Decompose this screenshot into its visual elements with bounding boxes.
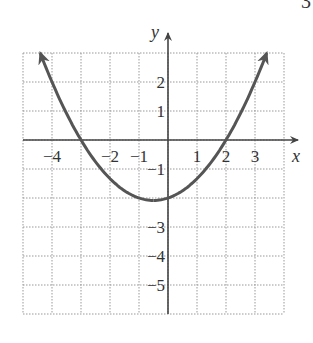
y-tick-label: −5 <box>147 276 165 295</box>
x-tick-label: 3 <box>251 147 260 166</box>
parabola-curve-right <box>154 53 267 200</box>
y-tick-label: −3 <box>147 218 165 237</box>
y-tick-label: 1 <box>157 102 166 121</box>
parabola-chart: xy−4−2−112321−1−3−4−5 <box>0 0 313 343</box>
y-tick-label: −4 <box>147 247 166 266</box>
parabola-curve-left <box>40 53 153 200</box>
x-tick-label: 2 <box>222 147 231 166</box>
x-tick-label: 1 <box>193 147 202 166</box>
x-axis-label: x <box>291 146 300 166</box>
y-tick-label: −1 <box>147 160 165 179</box>
x-tick-label: −4 <box>43 147 62 166</box>
x-tick-label: −2 <box>101 147 119 166</box>
y-tick-label: 2 <box>157 73 166 92</box>
y-axis-label: y <box>149 22 159 42</box>
x-tick-label: −1 <box>130 147 148 166</box>
